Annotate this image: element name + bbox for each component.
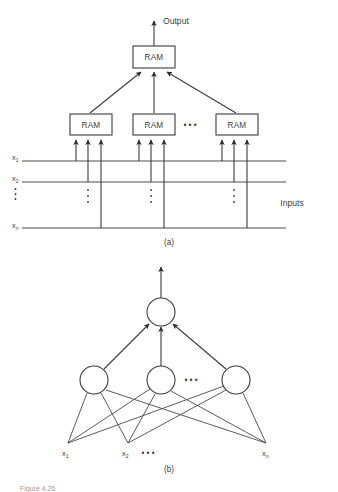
input-label-xn: xn xyxy=(12,221,19,231)
panel-b-group: • • • x1 x2 xn • • • (b xyxy=(62,267,269,474)
input-label-x1: x1 xyxy=(12,153,19,163)
figure-container: Output RAM RAM RAM RAM • • • x1 x2 xyxy=(0,0,338,492)
output-label: Output xyxy=(163,16,189,26)
panel-b-hidden-node-2 xyxy=(147,366,175,394)
wisard-ram-network-diagram: Output RAM RAM RAM RAM • • • x1 x2 xyxy=(0,0,338,492)
panel-b-output-node xyxy=(147,298,175,326)
panel-b-edge-x1-h2 xyxy=(68,389,150,443)
panel-b-input-label-x1: x1 xyxy=(62,449,69,459)
hidden-ram-label-2: RAM xyxy=(145,121,164,130)
hidden-to-top-wire-left xyxy=(90,72,141,113)
input-label-x2: x2 xyxy=(12,174,19,184)
panel-a-label: (a) xyxy=(164,238,174,247)
panel-b-edge-x2-h1 xyxy=(101,393,128,443)
panel-b-hidden1-to-output xyxy=(104,324,149,369)
hidden-ram-label-1: RAM xyxy=(82,121,101,130)
panel-b-input-ellipsis: • • • xyxy=(141,449,154,458)
panel-b-hidden-node-3 xyxy=(222,366,250,394)
panel-b-hidden-ellipsis: • • • xyxy=(184,376,197,385)
ram2-tap-vertical-ellipsis xyxy=(150,189,152,203)
ram1-tap-vertical-ellipsis xyxy=(87,189,89,203)
panel-b-input-label-xn: xn xyxy=(262,449,269,459)
top-ram-label: RAM xyxy=(145,53,164,62)
ram3-tap-vertical-ellipsis xyxy=(233,189,235,203)
hidden-ram-label-3: RAM xyxy=(228,121,247,130)
panel-b-edge-xn-h1 xyxy=(106,390,266,443)
panel-b-edge-xn-h2 xyxy=(171,391,266,443)
input-label-vertical-ellipsis xyxy=(15,188,17,200)
panel-a-group: Output RAM RAM RAM RAM • • • x1 x2 xyxy=(12,16,304,247)
panel-b-hidden-node-1 xyxy=(80,366,108,394)
inputs-label: Inputs xyxy=(280,198,303,208)
panel-b-edge-xn-h3 xyxy=(243,393,266,443)
panel-b-input-label-x2: x2 xyxy=(122,449,129,459)
figure-caption: Figure 4.26 xyxy=(20,485,56,492)
panel-b-hidden3-to-output xyxy=(173,324,226,369)
panel-b-edge-x1-h1 xyxy=(68,393,87,443)
panel-b-label: (b) xyxy=(164,465,174,474)
hidden-to-top-wire-right xyxy=(167,72,236,113)
panel-b-edge-x1-h3 xyxy=(68,386,224,443)
panel-a-ellipsis: • • • xyxy=(183,121,196,130)
